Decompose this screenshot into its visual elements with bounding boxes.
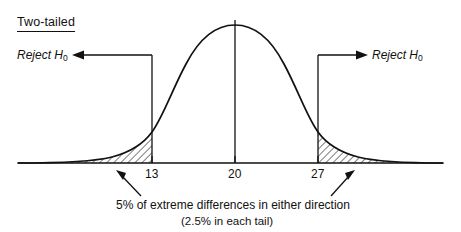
axis-tick-label-13: 13 xyxy=(145,168,158,180)
reject-left-text: Reject H xyxy=(17,48,63,62)
caption-secondary: (2.5% in each tail) xyxy=(181,216,273,228)
figure-canvas: Two-tailed Reject H0 Reject H0 13 20 27 … xyxy=(0,0,461,232)
right-tail-shaded-region xyxy=(318,132,443,163)
right-arrowhead-icon xyxy=(356,51,368,60)
reject-right-subscript: 0 xyxy=(418,53,423,63)
reject-left-subscript: 0 xyxy=(63,53,68,63)
right-caption-pointer-line xyxy=(331,176,349,196)
axis-tick-label-27: 27 xyxy=(311,168,324,180)
left-arrowhead-icon xyxy=(72,51,84,60)
normal-curve xyxy=(18,25,443,163)
caption-primary: 5% of extreme differences in either dire… xyxy=(116,199,350,211)
reject-right-text: Reject H xyxy=(372,48,418,62)
reject-h0-label-right: Reject H0 xyxy=(372,49,423,61)
axis-tick-label-20: 20 xyxy=(228,168,241,180)
left-tail-shaded-region xyxy=(18,132,152,163)
reject-h0-label-left: Reject H0 xyxy=(17,49,68,61)
figure-title: Two-tailed xyxy=(17,16,75,32)
left-caption-pointer-line xyxy=(122,176,141,196)
